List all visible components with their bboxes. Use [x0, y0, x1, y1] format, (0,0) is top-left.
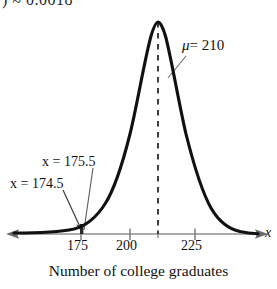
- figure-caption: Number of college graduates: [0, 263, 277, 279]
- mean-annotation: μ= 210: [182, 38, 224, 53]
- plot-canvas: [0, 0, 277, 289]
- x-axis-symbol-label: x: [265, 226, 271, 240]
- normal-curve: [14, 22, 258, 234]
- annotation-x-175-5: x = 175.5: [42, 155, 95, 169]
- tick-label-175: 175: [67, 239, 88, 253]
- x1745-leader-line: [63, 190, 81, 229]
- tick-label-225: 225: [181, 239, 202, 253]
- mu-symbol: μ: [182, 37, 190, 53]
- mu-value: = 210: [190, 37, 225, 53]
- tick-label-200: 200: [116, 239, 137, 253]
- normal-distribution-figure: ) ≈ 0.0018 μ= 210 x = 175.5 x = 1: [0, 0, 277, 289]
- annotation-x-174-5: x = 174.5: [10, 177, 63, 191]
